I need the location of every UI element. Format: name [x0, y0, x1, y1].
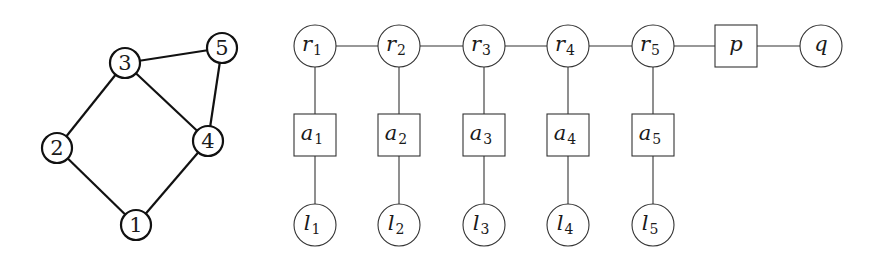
factor-node-a4: a4: [547, 114, 589, 156]
factor-graph-diagram: 12345 r1r2r3r4r5a1a2a3a4a5l1l2l3l4l5pq: [0, 0, 880, 268]
node-label: 4: [201, 129, 214, 153]
graph-node-1: 1: [121, 210, 151, 240]
factor-node-a2: a2: [378, 114, 420, 156]
variable-node-r3: r3: [463, 25, 505, 67]
variable-node-r4: r4: [547, 25, 589, 67]
variable-node-q: q: [800, 25, 842, 67]
variable-node-r2: r2: [378, 25, 420, 67]
variable-node-l2: l2: [378, 204, 420, 246]
node-label: 5: [215, 36, 228, 60]
variable-node-r1: r1: [294, 25, 336, 67]
graph-node-3: 3: [110, 48, 140, 78]
edge-3-2: [57, 63, 125, 148]
right-graph-nodes: r1r2r3r4r5a1a2a3a4a5l1l2l3l4l5pq: [294, 25, 842, 246]
variable-node-r5: r5: [632, 25, 674, 67]
node-label: 2: [50, 136, 63, 160]
factor-node-a3: a3: [463, 114, 505, 156]
node-label: p: [729, 32, 742, 56]
edge-2-1: [57, 148, 136, 225]
edge-3-4: [125, 63, 208, 141]
factor-node-a1: a1: [294, 114, 336, 156]
variable-node-l1: l1: [294, 204, 336, 246]
variable-node-l4: l4: [547, 204, 589, 246]
variable-node-l3: l3: [463, 204, 505, 246]
factor-node-a5: a5: [632, 114, 674, 156]
graph-node-2: 2: [42, 133, 72, 163]
node-label: 1: [129, 213, 142, 237]
graph-node-5: 5: [207, 33, 237, 63]
factor-node-p: p: [715, 25, 757, 67]
edge-4-1: [136, 141, 208, 225]
node-label: 3: [118, 51, 131, 75]
variable-node-l5: l5: [632, 204, 674, 246]
left-graph-nodes: 12345: [42, 33, 237, 240]
graph-node-4: 4: [193, 126, 223, 156]
node-label: q: [814, 32, 827, 56]
